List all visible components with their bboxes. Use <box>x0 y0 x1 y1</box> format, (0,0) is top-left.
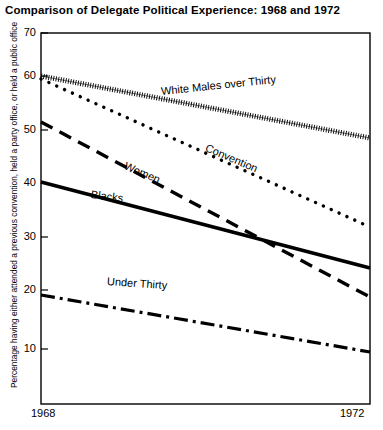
y-tick-label-30: 30 <box>10 231 36 242</box>
y-tick-label-10: 10 <box>10 343 36 354</box>
y-tick-label-60: 60 <box>10 70 36 81</box>
chart-container: Comparison of Delegate Political Experie… <box>0 0 383 430</box>
x-tick-label-1968: 1968 <box>31 408 55 419</box>
x-tick-label-1972: 1972 <box>340 408 364 419</box>
chart-plot-svg <box>0 0 383 430</box>
y-tick-label-50: 50 <box>10 124 36 135</box>
y-tick-label-40: 40 <box>10 177 36 188</box>
y-tick-label-70: 70 <box>10 27 36 38</box>
y-tick-label-20: 20 <box>10 284 36 295</box>
series-line-under-thirty <box>41 295 370 352</box>
